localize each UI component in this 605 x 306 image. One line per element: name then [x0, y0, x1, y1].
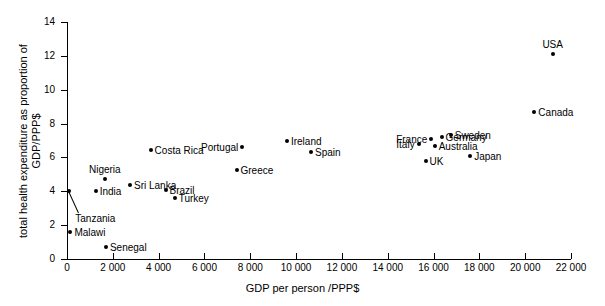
x-tick-3	[204, 253, 205, 259]
x-tick-5	[296, 253, 297, 259]
data-point-sri-lanka	[128, 183, 132, 187]
x-tick-label-3: 6 000	[192, 263, 217, 273]
plot-area: 02468101214 02 0004 0006 0008 00010 0001…	[0, 0, 605, 306]
data-point-senegal	[104, 245, 108, 249]
y-axis-title: total health expenditure as proportion o…	[17, 26, 43, 256]
data-point-canada	[532, 110, 536, 114]
x-tick-2	[159, 253, 160, 259]
point-label-portugal: Portugal	[201, 142, 238, 153]
point-label-ireland: Ireland	[291, 135, 322, 146]
x-tick-label-10: 20 000	[510, 263, 541, 273]
data-point-sweden	[449, 133, 453, 137]
point-label-nigeria: Nigeria	[89, 164, 121, 175]
point-label-spain: Spain	[315, 147, 341, 158]
y-tick-2	[61, 225, 67, 226]
data-point-ireland	[285, 139, 289, 143]
y-axis-line	[67, 22, 68, 260]
x-tick-7	[388, 253, 389, 259]
x-axis-title: GDP per person /PPP$	[0, 282, 605, 294]
x-tick-8	[434, 253, 435, 259]
x-tick-1	[113, 253, 114, 259]
data-point-malawi	[68, 230, 72, 234]
point-label-greece: Greece	[241, 165, 274, 176]
data-point-india	[94, 189, 98, 193]
data-point-usa	[551, 52, 555, 56]
data-point-japan	[468, 154, 472, 158]
point-label-senegal: Senegal	[110, 242, 147, 253]
x-tick-11	[571, 253, 572, 259]
x-tick-9	[479, 253, 480, 259]
data-point-australia	[433, 144, 437, 148]
data-point-turkey	[173, 196, 177, 200]
data-point-greece	[235, 168, 239, 172]
y-tick-0	[61, 259, 67, 260]
x-tick-10	[525, 253, 526, 259]
y-tick-6	[61, 157, 67, 158]
y-tick-8	[61, 124, 67, 125]
point-label-turkey: Turkey	[179, 193, 209, 204]
y-tick-14	[61, 22, 67, 23]
x-tick-label-2: 4 000	[146, 263, 171, 273]
data-point-germany	[440, 135, 444, 139]
point-label-costa-rica: Costa Rica	[155, 144, 204, 155]
point-label-tanzania: Tanzania	[75, 213, 115, 224]
x-tick-label-4: 8 000	[238, 263, 263, 273]
point-label-canada: Canada	[538, 106, 573, 117]
data-point-costa-rica	[149, 148, 153, 152]
data-point-spain	[309, 150, 313, 154]
y-tick-4	[61, 191, 67, 192]
point-label-japan: Japan	[474, 150, 501, 161]
point-label-france: France	[396, 133, 427, 144]
y-tick-12	[61, 56, 67, 57]
x-tick-label-1: 2 000	[100, 263, 125, 273]
x-tick-label-9: 18 000	[464, 263, 495, 273]
x-tick-label-7: 14 000	[372, 263, 403, 273]
point-label-india: India	[100, 186, 122, 197]
y-tick-10	[61, 90, 67, 91]
data-point-france	[429, 137, 433, 141]
x-tick-label-11: 22 000	[556, 263, 587, 273]
data-point-uk	[424, 159, 428, 163]
x-tick-label-0: 0	[64, 263, 70, 273]
x-tick-label-6: 12 000	[327, 263, 358, 273]
x-tick-4	[250, 253, 251, 259]
x-tick-6	[342, 253, 343, 259]
point-label-malawi: Malawi	[74, 226, 105, 237]
data-point-brazil	[164, 188, 168, 192]
point-label-sweden: Sweden	[455, 130, 491, 141]
data-point-portugal	[240, 145, 244, 149]
scatter-chart: 02468101214 02 0004 0006 0008 00010 0001…	[0, 0, 605, 306]
point-label-usa: USA	[542, 39, 563, 50]
point-label-uk: UK	[430, 155, 444, 166]
leader-line-tanzania	[68, 191, 79, 213]
x-tick-label-8: 16 000	[418, 263, 449, 273]
x-axis-line	[67, 259, 571, 260]
data-point-nigeria	[103, 177, 107, 181]
x-tick-label-5: 10 000	[281, 263, 312, 273]
